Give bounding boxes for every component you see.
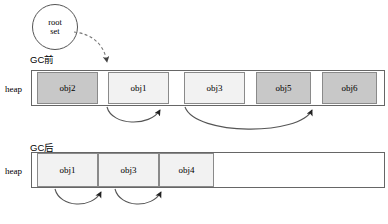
heap-bar-before-gc: obj2obj1obj3obj5obj6obj4 xyxy=(31,70,385,106)
heap-label-after: heap xyxy=(5,166,22,176)
heap-before-cell-obj3: obj3 xyxy=(184,72,245,104)
heap-cells-after: obj1obj3obj4 xyxy=(32,153,384,187)
heap-before-cell-label: obj5 xyxy=(275,84,291,93)
heap-after-cell-obj4: obj4 xyxy=(159,153,214,187)
heap-after-cell-label: obj1 xyxy=(59,166,75,175)
heap-bar-after-gc: obj1obj3obj4 xyxy=(31,152,385,188)
arrow-after-obj1-to-obj3 xyxy=(55,189,101,204)
arrow-root-to-obj1 xyxy=(74,32,107,62)
heap-after-cell-label: obj4 xyxy=(178,166,194,175)
section-label-before-gc: GC前 xyxy=(30,52,54,66)
arrow-after-obj3-to-obj4 xyxy=(115,189,161,204)
heap-before-cell-obj1: obj1 xyxy=(108,72,169,104)
root-set-node: root set xyxy=(32,4,78,50)
heap-before-cell-obj5: obj5 xyxy=(256,72,311,104)
heap-before-cell-obj2: obj2 xyxy=(37,72,98,104)
heap-cells-before: obj2obj1obj3obj5obj6obj4 xyxy=(32,71,384,105)
heap-before-cell-label: obj1 xyxy=(130,84,146,93)
heap-label-before: heap xyxy=(5,84,22,94)
heap-before-cell-label: obj6 xyxy=(341,84,357,93)
root-set-line2: set xyxy=(50,27,59,36)
heap-after-cell-obj1: obj1 xyxy=(37,153,98,187)
heap-before-cell-label: obj2 xyxy=(59,84,75,93)
heap-before-cell-obj6: obj6 xyxy=(322,72,377,104)
arrow-before-obj1-to-obj3 xyxy=(107,107,160,122)
heap-before-cell-label: obj3 xyxy=(206,84,222,93)
heap-after-cell-obj3: obj3 xyxy=(98,153,159,187)
gc-diagram: root set GC前 GC后 heap heap obj2obj1obj3o… xyxy=(0,0,388,224)
arrow-before-obj3-to-obj4 xyxy=(185,107,312,129)
heap-after-cell-label: obj3 xyxy=(120,166,136,175)
